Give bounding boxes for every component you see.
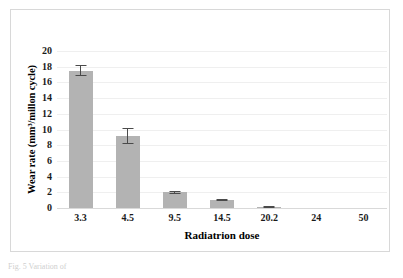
y-axis-tick-label: 20 (42, 46, 52, 56)
y-axis-tick-label: 18 (42, 62, 52, 72)
error-bar-cap-top (169, 191, 180, 192)
error-bar-cap-bottom (75, 75, 86, 76)
y-axis-tick-label: 12 (42, 109, 52, 119)
bar-group[interactable] (340, 51, 387, 208)
bar-group[interactable] (293, 51, 340, 208)
error-bar (169, 191, 180, 194)
x-axis-tick-label: 14.5 (198, 210, 245, 226)
bar-group[interactable] (57, 51, 104, 208)
bar-group[interactable] (104, 51, 151, 208)
y-axis-tick-label: 0 (47, 203, 52, 213)
y-axis-tick-label: 10 (42, 125, 52, 135)
error-bar-cap-top (75, 65, 86, 66)
x-axis-title: Radiatrion dose (57, 229, 387, 241)
bar[interactable] (116, 136, 140, 208)
figure-frame: Wear rate (mm³/millon cycle) 02468101214… (10, 9, 390, 252)
x-axis-tick-label: 24 (293, 210, 340, 226)
error-bar (75, 65, 86, 76)
x-axis-tick-label: 3.3 (57, 210, 104, 226)
error-bar-cap-bottom (122, 143, 133, 144)
gridline (57, 208, 387, 209)
bar[interactable] (210, 200, 234, 208)
error-bar (122, 128, 133, 144)
y-axis-title: Wear rate (mm³/millon cycle) (23, 51, 39, 208)
x-axis-tick-label: 50 (340, 210, 387, 226)
error-bar (264, 206, 275, 208)
x-axis-tick-label: 20.2 (246, 210, 293, 226)
y-axis-tick-label: 16 (42, 77, 52, 87)
x-axis-tick-label: 4.5 (104, 210, 151, 226)
bar-group[interactable] (246, 51, 293, 208)
figure-caption-clipped: Fig. 5 Variation of (8, 262, 208, 272)
error-bar-cap-top (122, 128, 133, 129)
x-axis-tick-labels: 3.34.59.514.520.22450 (57, 210, 387, 226)
plot-area: 02468101214161820 (57, 51, 387, 208)
y-axis-tick-label: 2 (47, 187, 52, 197)
error-bar-stem (127, 128, 128, 144)
error-bar-cap-bottom (264, 207, 275, 208)
bar[interactable] (69, 71, 93, 208)
y-axis-tick-label: 8 (47, 140, 52, 150)
x-axis-tick-label: 9.5 (151, 210, 198, 226)
y-axis-tick-label: 14 (42, 93, 52, 103)
error-bar-cap-bottom (216, 200, 227, 201)
error-bar-cap-bottom (169, 193, 180, 194)
y-axis-tick-label: 4 (47, 172, 52, 182)
y-axis-tick-label: 6 (47, 156, 52, 166)
bar-group[interactable] (198, 51, 245, 208)
bar-group[interactable] (151, 51, 198, 208)
bar[interactable] (163, 192, 187, 208)
error-bar (216, 199, 227, 201)
